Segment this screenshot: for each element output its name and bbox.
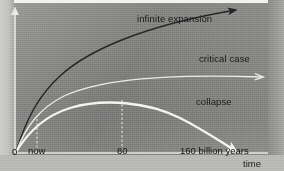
tick-label-now: now [28, 145, 45, 156]
tick-label-origin: 0 [12, 146, 17, 157]
label-critical-case: critical case [199, 53, 250, 64]
tick-label-80: 80 [117, 145, 128, 156]
x-axis-label: time [243, 158, 261, 169]
label-infinite-expansion: infinite expansion [137, 13, 212, 24]
expansion-figure: space time infinite expansion critical c… [0, 0, 284, 171]
label-collapse: collapse [196, 96, 232, 107]
tick-label-160-billion-years: 160 billion years [180, 145, 249, 156]
